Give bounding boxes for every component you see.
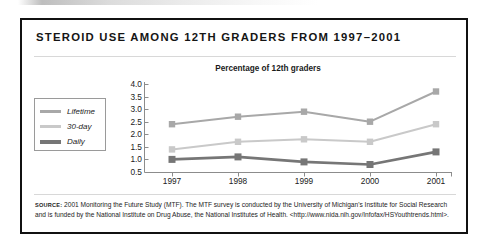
data-point-30-day-2000: [367, 139, 373, 145]
figure-container: STEROID USE AMONG 12TH GRADERS FROM 1997…: [20, 18, 468, 234]
y-axis-label: 3.0: [130, 105, 142, 113]
chart-subtitle: Percentage of 12th graders: [22, 64, 466, 73]
data-point-lifetime-1997: [169, 121, 175, 127]
legend-swatch-daily-icon: [40, 140, 61, 144]
source-note-label: source:: [35, 202, 62, 208]
legend-item-30-day: 30-day: [35, 119, 105, 134]
chart-plot-area: 4.03.53.02.52.01.51.00.5 199719981999200…: [118, 80, 458, 190]
x-axis-tick-labels: 19971998199920002001: [144, 174, 458, 188]
y-axis-label: 1.0: [130, 155, 142, 163]
data-point-daily-1999: [301, 158, 308, 165]
page-title: STEROID USE AMONG 12TH GRADERS FROM 1997…: [36, 31, 401, 43]
data-point-lifetime-2000: [367, 119, 373, 125]
x-axis-label: 2001: [427, 176, 445, 186]
data-point-30-day-2001: [433, 121, 439, 127]
y-axis-label: 0.5: [130, 168, 142, 176]
x-axis-label: 1999: [295, 176, 313, 186]
source-note: source: 2001 Monitoring the Future Study…: [35, 200, 455, 219]
scan-artifact-band: [18, 0, 318, 5]
title-divider: [34, 56, 456, 57]
data-point-daily-1997: [169, 156, 176, 163]
series-line-lifetime: [172, 92, 436, 125]
data-point-lifetime-1998: [235, 114, 241, 120]
legend-label-30-day: 30-day: [67, 122, 91, 131]
data-point-30-day-1997: [169, 146, 175, 152]
data-point-daily-1998: [235, 153, 242, 160]
x-axis-label: 1997: [163, 176, 181, 186]
y-axis-label: 4.0: [130, 80, 142, 88]
x-axis-label: 1998: [229, 176, 247, 186]
data-point-lifetime-2001: [433, 88, 439, 94]
data-point-30-day-1999: [301, 136, 307, 142]
legend-item-lifetime: Lifetime: [35, 104, 105, 119]
source-divider: [34, 194, 456, 195]
data-point-daily-2001: [433, 148, 440, 155]
legend-label-daily: Daily: [67, 137, 85, 146]
screenshot-root: STEROID USE AMONG 12TH GRADERS FROM 1997…: [0, 0, 490, 251]
data-point-30-day-1998: [235, 139, 241, 145]
y-axis-label: 1.5: [130, 143, 142, 151]
source-note-text: 2001 Monitoring the Future Study (MTF). …: [35, 201, 449, 218]
legend-swatch-lifetime-icon: [40, 110, 61, 113]
y-axis-tick-labels: 4.03.53.02.52.01.51.00.5: [118, 80, 142, 172]
legend-item-daily: Daily: [35, 134, 105, 149]
chart-legend: Lifetime 30-day Daily: [34, 98, 106, 151]
data-point-lifetime-1999: [301, 109, 307, 115]
legend-swatch-30-day-icon: [40, 125, 61, 128]
data-point-daily-2000: [367, 161, 374, 168]
y-axis-label: 3.5: [130, 92, 142, 100]
y-axis-label: 2.5: [130, 118, 142, 126]
y-axis-label: 2.0: [130, 130, 142, 138]
x-axis-label: 2000: [361, 176, 379, 186]
legend-label-lifetime: Lifetime: [67, 107, 95, 116]
